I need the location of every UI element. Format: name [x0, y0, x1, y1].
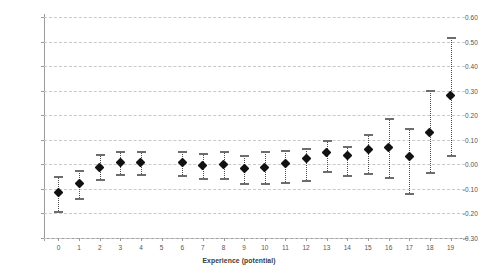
x-tick-mark [451, 238, 452, 241]
data-point-marker [342, 151, 352, 161]
error-bar-cap-lower [220, 178, 229, 180]
x-tick-label: 15 [358, 244, 378, 251]
error-bar-cap-lower [137, 174, 146, 176]
error-bar-cap-upper [261, 151, 270, 153]
error-bar-cap-lower [343, 175, 352, 177]
error-bar-cap-upper [385, 118, 394, 120]
x-tick-label: 8 [214, 244, 234, 251]
error-bar-cap-upper [281, 150, 290, 152]
error-bar-cap-upper [302, 148, 311, 150]
x-tick-mark [141, 238, 142, 241]
data-point-marker [74, 178, 84, 188]
data-point-marker [446, 90, 456, 100]
x-tick-label: 18 [420, 244, 440, 251]
data-point-marker [301, 154, 311, 164]
error-bar-cap-upper [54, 176, 63, 178]
x-tick-label: 11 [275, 244, 295, 251]
x-tick-mark [162, 238, 163, 241]
x-tick-mark [265, 238, 266, 241]
x-tick-mark [58, 238, 59, 241]
x-tick-mark [368, 238, 369, 241]
x-tick-label: 19 [441, 244, 461, 251]
error-bar-cap-upper [343, 146, 352, 148]
x-tick-label: 6 [172, 244, 192, 251]
error-bar-cap-upper [426, 90, 435, 92]
x-tick-label: 14 [337, 244, 357, 251]
x-tick-label: 9 [234, 244, 254, 251]
x-tick-mark [203, 238, 204, 241]
gridline-y [44, 238, 465, 239]
x-tick-label: 7 [193, 244, 213, 251]
error-bar-line [306, 148, 307, 180]
error-bar-cap-upper [220, 151, 229, 153]
x-axis-title: Experience (potential) [0, 257, 478, 264]
error-bar-cap-lower [199, 178, 208, 180]
data-point-marker [425, 127, 435, 137]
x-tick-label: 13 [317, 244, 337, 251]
error-bar-cap-upper [75, 170, 84, 172]
x-tick-label: 10 [255, 244, 275, 251]
error-bar-cap-lower [447, 155, 456, 157]
x-tick-mark [79, 238, 80, 241]
data-point-marker [384, 143, 394, 153]
x-tick-mark [430, 238, 431, 241]
error-bar-cap-upper [96, 154, 105, 156]
chart-container: -0.30-0.20-0.100.000.100.200.300.400.500… [0, 0, 478, 271]
error-bar-cap-upper [240, 155, 249, 157]
error-bar-cap-upper [364, 134, 373, 136]
data-point-marker [363, 144, 373, 154]
data-point-marker [239, 164, 249, 174]
error-bar-cap-lower [302, 180, 311, 182]
error-bar-cap-lower [116, 174, 125, 176]
error-bar-cap-lower [281, 182, 290, 184]
x-tick-label: 17 [399, 244, 419, 251]
data-point-marker [404, 152, 414, 162]
x-tick-mark [327, 238, 328, 241]
error-bar-cap-upper [447, 37, 456, 39]
error-bar-cap-upper [323, 140, 332, 142]
data-point-marker [136, 157, 146, 167]
data-point-marker [177, 158, 187, 168]
error-bar-cap-lower [385, 177, 394, 179]
data-point-marker [219, 159, 229, 169]
error-bar-cap-upper [405, 128, 414, 130]
x-tick-label: 0 [48, 244, 68, 251]
error-bar-cap-lower [178, 175, 187, 177]
error-bar-cap-lower [240, 183, 249, 185]
data-point-marker [198, 161, 208, 171]
x-tick-label: 2 [90, 244, 110, 251]
x-tick-mark [389, 238, 390, 241]
x-tick-mark [347, 238, 348, 241]
error-bar-cap-lower [54, 211, 63, 213]
error-bar-cap-lower [323, 171, 332, 173]
plot-area [44, 17, 465, 238]
data-point-marker [95, 162, 105, 172]
data-series-coefficient-estimate [44, 17, 465, 238]
error-bar-cap-upper [137, 151, 146, 153]
x-tick-mark [306, 238, 307, 241]
x-tick-mark [100, 238, 101, 241]
x-tick-mark [224, 238, 225, 241]
error-bar-cap-lower [364, 173, 373, 175]
data-point-marker [260, 162, 270, 172]
error-bar-cap-upper [199, 153, 208, 155]
x-tick-label: 4 [131, 244, 151, 251]
x-tick-label: 5 [152, 244, 172, 251]
x-tick-label: 1 [69, 244, 89, 251]
x-tick-label: 3 [110, 244, 130, 251]
data-point-marker [322, 147, 332, 157]
error-bar-cap-lower [426, 172, 435, 174]
error-bar-cap-lower [75, 198, 84, 200]
error-bar-cap-upper [178, 151, 187, 153]
data-point-marker [115, 157, 125, 167]
x-tick-label: 16 [379, 244, 399, 251]
x-tick-mark [285, 238, 286, 241]
error-bar-cap-lower [261, 183, 270, 185]
x-tick-mark [182, 238, 183, 241]
error-bar-cap-lower [96, 179, 105, 181]
data-point-marker [281, 159, 291, 169]
x-tick-mark [120, 238, 121, 241]
data-point-marker [53, 188, 63, 198]
x-tick-mark [409, 238, 410, 241]
error-bar-cap-upper [116, 151, 125, 153]
